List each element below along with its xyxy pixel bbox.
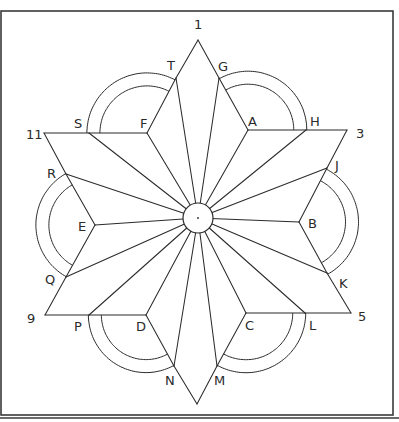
label-S: S [74,116,82,131]
label-J: J [334,158,339,173]
edge-L-O [198,218,305,313]
label-R: R [47,166,56,181]
outer-arc-N-P [88,315,173,373]
outer-arc-S-T [87,73,175,133]
label-11: 11 [26,127,43,142]
label-M: M [214,373,225,388]
label-9: 9 [27,311,35,326]
center-dot [197,217,199,219]
edge-H-O [198,130,306,218]
edge-P-O [89,218,198,315]
edge-G-O [198,78,219,218]
label-B: B [308,216,317,231]
edge-M-O [198,218,217,366]
label-P: P [74,319,82,334]
label-E: E [78,219,86,234]
label-H: H [310,114,320,129]
edge-top-G [198,40,219,78]
label-3: 3 [356,126,364,141]
edge-T-O [176,78,198,218]
label-5: 5 [358,309,366,324]
label-N: N [165,373,175,388]
edge-S-O [89,133,198,218]
inner-arc-N-P [101,315,167,360]
inner-arc-L-M [224,313,293,360]
edge-J-O [198,168,327,218]
label-L: L [309,318,317,333]
label-T: T [166,58,175,73]
label-D: D [136,319,146,334]
outer-arc-J-K [326,169,358,274]
outer-arc-L-M [217,313,305,373]
label-F: F [140,116,147,131]
inner-arc-G-H [226,84,294,130]
label-1: 1 [194,17,202,32]
outer-arc-G-H [219,71,306,130]
label-G: G [218,59,228,74]
inner-arc-S-T [100,86,169,133]
edge-C-M [217,313,246,366]
label-Q: Q [45,272,55,287]
label-A: A [248,114,257,129]
label-K: K [339,276,348,291]
edge-R-O [66,174,198,218]
edge-N-bot [174,366,197,404]
inner-arc-J-K [320,181,345,263]
edge-C-O [198,218,246,313]
label-C: C [245,318,254,333]
outer-arc-Q-R [36,174,66,277]
star-rosette-diagram: 1 3 5 9 11 T G S F A H R J E B Q K P D C… [0,0,399,422]
edge-R-E [66,174,95,225]
edge-G-A [219,78,248,130]
edge-D-N [146,315,174,366]
edge-J-B [299,168,327,222]
edge-top-T [176,40,198,78]
inner-arc-Q-R [49,185,73,265]
